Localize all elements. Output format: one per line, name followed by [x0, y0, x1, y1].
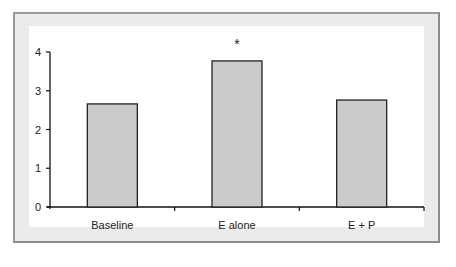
y-tick-label: 3: [35, 85, 41, 97]
y-tick-label: 4: [35, 46, 41, 58]
bar-chart: 01234BaselineE alone*E + P: [0, 0, 456, 267]
x-category-label: Baseline: [91, 219, 133, 231]
y-tick-label: 2: [35, 124, 41, 136]
y-tick-label: 1: [35, 162, 41, 174]
y-tick-label: 0: [35, 201, 41, 213]
x-category-label: E + P: [348, 219, 375, 231]
bar-baseline: [87, 104, 137, 207]
bar-e-alone: [212, 61, 262, 207]
bar-e-p: [337, 100, 387, 207]
significance-annotation: *: [234, 36, 240, 52]
x-category-label: E alone: [218, 219, 255, 231]
